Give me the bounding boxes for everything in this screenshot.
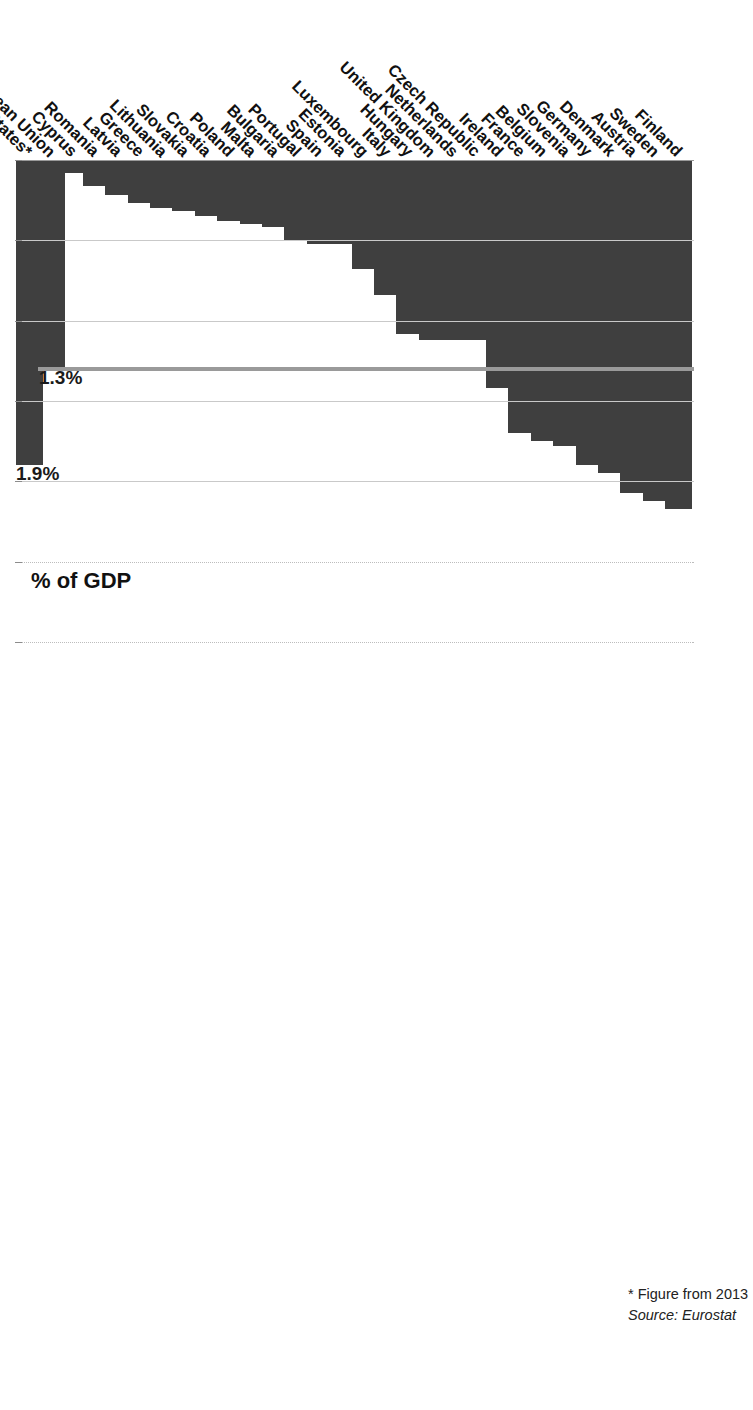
gridline-3.0% <box>22 642 694 644</box>
tick-label-0.5%: 0.5% <box>0 228 2 252</box>
tick-label-2.5%: 2.5% <box>0 550 2 574</box>
tick-mark <box>15 562 22 563</box>
tick-mark <box>15 642 22 643</box>
gridline-0.5% <box>22 240 694 241</box>
footnote-source: Source: Eurostat <box>628 1305 753 1326</box>
category-axis-labels: FinlandSwedenAustriaDenmarkGermanySloven… <box>0 0 716 160</box>
tick-label-1.0%: 1.0% <box>0 309 2 333</box>
reference-line-eu <box>38 367 694 371</box>
bar-fill <box>16 160 43 465</box>
tick-mark <box>15 401 22 402</box>
gridline-1.0% <box>22 321 694 322</box>
footnotes: * Figure from 2013 Source: Eurostat <box>628 1284 753 1326</box>
tick-mark <box>15 240 22 241</box>
gridline-2.5% <box>22 562 694 564</box>
value-label: 1.9% <box>16 463 59 485</box>
tick-mark <box>15 160 22 161</box>
tick-label-0.0%: 0.0% <box>0 148 2 172</box>
axis-title: % of GDP <box>31 568 131 594</box>
tick-label-2.0%: 2.0% <box>0 469 2 493</box>
tick-mark <box>15 321 22 322</box>
value-label: 1.3% <box>39 367 82 389</box>
gridline-2.0% <box>22 481 694 482</box>
footnote-note: * Figure from 2013 <box>628 1284 753 1305</box>
tick-label-1.5%: 1.5% <box>0 389 2 413</box>
tick-label-3.0%: 3.0% <box>0 630 2 654</box>
gridline-1.5% <box>22 401 694 402</box>
